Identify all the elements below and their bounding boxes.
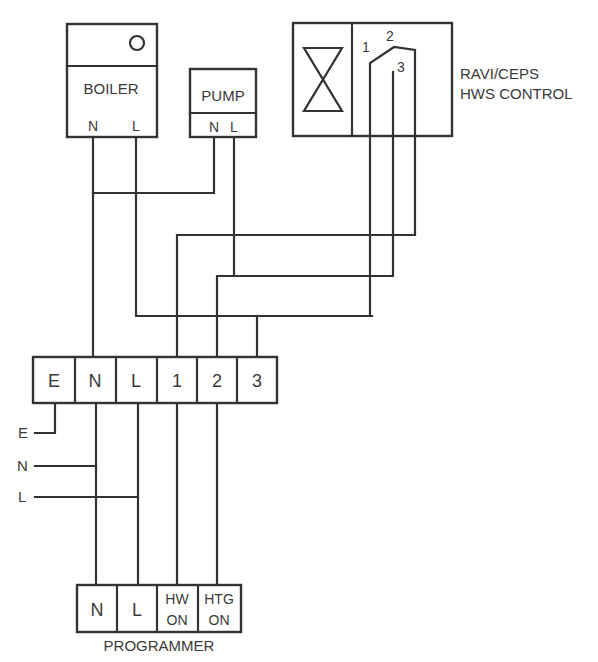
pump-label: PUMP: [201, 87, 244, 104]
wire-pump-n: [93, 137, 214, 193]
programmer-terminal-htg-line2: ON: [209, 612, 230, 628]
terminal-1: 1: [172, 371, 182, 391]
wire-boiler-l: [136, 137, 372, 316]
programmer-terminal-l: L: [132, 600, 142, 620]
pump-terminal-n: N: [209, 119, 219, 135]
terminal-3: 3: [252, 371, 262, 391]
wire-supply-e: [35, 403, 55, 433]
hws-label-line2: HWS CONTROL: [460, 85, 573, 102]
supply-n-label: N: [17, 457, 28, 474]
programmer-terminal-n: N: [91, 600, 104, 620]
supply-e-label: E: [18, 424, 28, 441]
programmer-terminal-htg-line1: HTG: [204, 591, 234, 607]
terminal-l: L: [131, 371, 141, 391]
boiler: BOILER N L: [67, 24, 157, 137]
programmer: N L HW ON HTG ON PROGRAMMER: [77, 585, 241, 654]
supply-l-label: L: [18, 488, 26, 505]
hws-label-line1: RAVI/CEPS: [460, 65, 539, 82]
switch-label-3: 3: [397, 59, 405, 75]
pump: PUMP N L: [190, 69, 256, 137]
terminal-block: E N L 1 2 3: [33, 357, 277, 403]
wiring-diagram: BOILER N L PUMP N L 1 2 3 RAVI/CEPS HWS …: [0, 0, 598, 662]
pump-terminal-l: L: [230, 119, 238, 135]
switch-label-2: 2: [386, 28, 394, 44]
terminal-2: 2: [212, 371, 222, 391]
terminal-e: E: [48, 371, 60, 391]
hws-control: 1 2 3 RAVI/CEPS HWS CONTROL: [293, 23, 573, 136]
supply-labels: E N L: [17, 424, 28, 505]
terminal-n: N: [89, 371, 102, 391]
programmer-terminal-hw-line2: ON: [167, 612, 188, 628]
switch-label-1: 1: [362, 39, 370, 55]
programmer-label: PROGRAMMER: [104, 637, 215, 654]
boiler-terminal-l: L: [132, 118, 140, 134]
programmer-terminal-hw-line1: HW: [165, 591, 189, 607]
boiler-label: BOILER: [83, 80, 138, 97]
boiler-terminal-n: N: [88, 118, 98, 134]
